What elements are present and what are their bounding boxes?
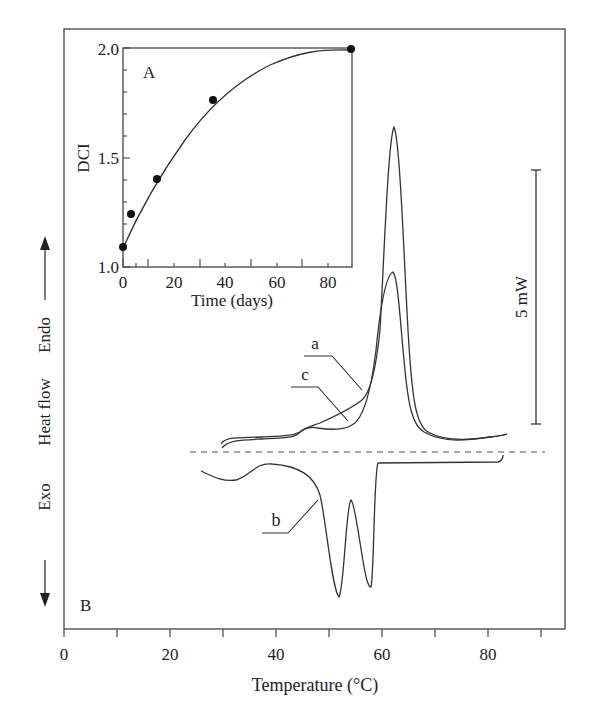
inset-x-tick-label: 60 — [269, 273, 286, 292]
inset-x-tick-label: 20 — [166, 273, 183, 292]
data-point — [347, 45, 355, 53]
inset-x-tick-label: 40 — [217, 273, 234, 292]
scale-bar — [531, 170, 541, 424]
inset-x-tick-label: 80 — [320, 273, 337, 292]
data-point — [119, 243, 127, 251]
x-tick-label: 0 — [60, 645, 69, 664]
x-tick-label: 20 — [162, 645, 179, 664]
x-tick-label: 60 — [374, 645, 391, 664]
dsc-figure: 0 20 40 60 80 Temperature (°C) Endo Heat… — [0, 0, 590, 722]
curve-a-label: a — [311, 334, 319, 353]
scale-bar-label: 5 mW — [512, 275, 531, 318]
inset-y-tick-label: 1.5 — [98, 149, 119, 168]
inset-frame — [123, 48, 352, 267]
endo-label: Endo — [35, 317, 54, 353]
arrow-up-icon — [40, 236, 50, 250]
exo-label: Exo — [35, 483, 54, 510]
inset-y-axis-label: DCI — [74, 143, 93, 173]
curve-c-label: c — [301, 365, 309, 384]
inset-y-tick-label: 2.0 — [98, 40, 119, 59]
data-point — [153, 175, 161, 183]
main-x-axis-label: Temperature (°C) — [252, 675, 378, 696]
arrow-down-icon — [40, 593, 50, 607]
main-x-ticks — [64, 629, 541, 637]
data-point — [209, 96, 217, 104]
curve-b-label: b — [272, 510, 281, 530]
main-x-tick-labels: 0 20 40 60 80 — [60, 645, 497, 664]
x-tick-label: 80 — [480, 645, 497, 664]
x-tick-label: 40 — [268, 645, 285, 664]
curve-b — [201, 455, 503, 597]
inset-y-tick-label: 1.0 — [98, 258, 119, 277]
data-point — [127, 210, 135, 218]
panel-b-label: B — [80, 596, 91, 615]
inset-chart-a: 0 20 40 60 80 1.0 1.5 2.0 Time (days) DC… — [74, 40, 355, 310]
heat-flow-label: Heat flow — [35, 378, 54, 446]
heat-flow-axis-label: Endo Heat flow Exo — [35, 236, 54, 607]
inset-x-axis-label: Time (days) — [191, 291, 273, 310]
panel-a-label: A — [143, 63, 156, 82]
inset-x-tick-label: 0 — [119, 273, 128, 292]
curve-leaders — [262, 356, 362, 533]
